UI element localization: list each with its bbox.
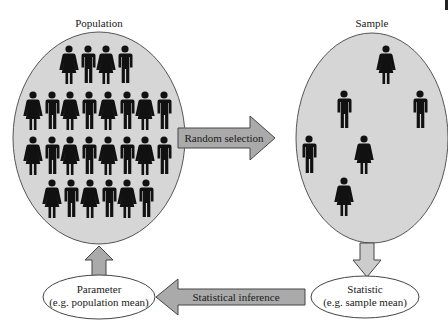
sample-ellipse (296, 33, 448, 243)
parameter-to-population-arrow (85, 246, 113, 278)
random-selection-label: Random selection (180, 132, 268, 145)
parameter-line1: Parameter (43, 283, 155, 296)
statistical-inference-label: Statistical inference (182, 291, 290, 304)
statistic-line1: Statistic (311, 283, 419, 296)
sample-to-statistic-arrow (353, 243, 381, 277)
population-title: Population (64, 17, 134, 30)
statistic-line2: (e.g. sample mean) (311, 296, 419, 309)
statistic-label: Statistic (e.g. sample mean) (311, 283, 419, 309)
parameter-line2: (e.g. population mean) (43, 296, 155, 309)
parameter-label: Parameter (e.g. population mean) (43, 283, 155, 309)
sample-title: Sample (339, 17, 405, 30)
